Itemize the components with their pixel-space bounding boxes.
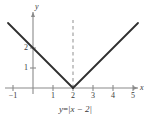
x-tick-label-2: 2: [65, 92, 81, 100]
caption-expression: |x − 2|: [68, 104, 92, 114]
x-tick-label-1: 1: [45, 92, 61, 100]
y-axis-name-label: y: [35, 3, 39, 11]
x-tick-label-neg1: −1: [5, 92, 21, 100]
absolute-value-graph-figure: −1 1 2 3 4 5 1 2 x y y=|x − 2|: [0, 0, 151, 124]
y-tick-label-2: 2: [18, 44, 28, 52]
y-tick-label-1: 1: [18, 64, 28, 72]
y-axis-arrowhead: [31, 12, 35, 17]
x-axis-arrowhead: [133, 86, 138, 90]
x-tick-label-3: 3: [85, 92, 101, 100]
x-tick-label-5: 5: [125, 92, 141, 100]
figure-caption: y=|x − 2|: [0, 105, 151, 114]
curve-left-branch: [8, 23, 73, 88]
x-tick-label-4: 4: [105, 92, 121, 100]
curve-right-branch: [73, 23, 138, 88]
x-axis-name-label: x: [140, 84, 144, 92]
